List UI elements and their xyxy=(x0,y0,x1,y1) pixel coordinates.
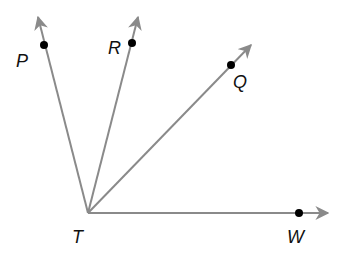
label-r: R xyxy=(108,38,121,58)
point-r xyxy=(128,39,136,47)
ray-tq xyxy=(88,45,251,213)
angle-diagram: PRQWT xyxy=(0,0,341,255)
point-w xyxy=(295,209,303,217)
label-q: Q xyxy=(233,72,247,92)
point-p xyxy=(40,41,48,49)
point-q xyxy=(227,61,235,69)
label-w: W xyxy=(287,227,306,247)
label-p: P xyxy=(16,51,28,71)
label-t: T xyxy=(72,227,85,247)
